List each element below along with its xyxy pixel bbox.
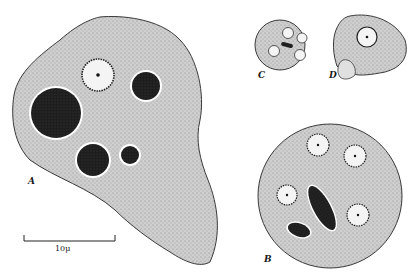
nucleus: [357, 27, 377, 47]
nucleus: [297, 33, 307, 43]
panel-label-a: A: [28, 176, 35, 186]
panel-label-b: B: [264, 254, 272, 264]
nucleus: [283, 28, 294, 39]
cell-a: [13, 16, 218, 264]
nucleus: [295, 50, 306, 61]
nucleus: [347, 204, 369, 226]
cell-c: [255, 20, 307, 70]
panel-label-c: C: [258, 70, 265, 80]
nucleus: [344, 145, 366, 167]
nucleus: [277, 185, 297, 205]
nucleus: [269, 46, 280, 57]
nucleus: [82, 59, 114, 91]
cell-d: [333, 15, 406, 79]
scale-bar: [24, 235, 115, 241]
figure-canvas: [0, 0, 410, 275]
nucleus: [307, 134, 329, 156]
panel-label-d: D: [329, 70, 337, 80]
cell-b: [258, 124, 402, 268]
scale-bar-label: 10μ: [55, 244, 70, 253]
cell-a-body: [13, 16, 218, 264]
